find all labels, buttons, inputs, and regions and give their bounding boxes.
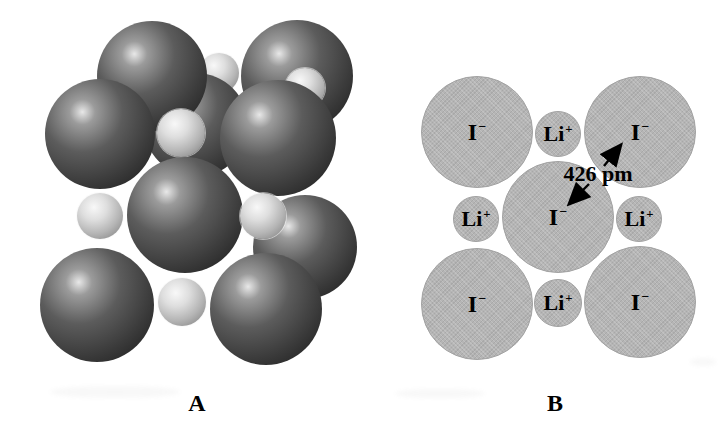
figure-lii-crystal: { "panel_a": { "label": "A", "spheres": … (0, 0, 722, 426)
distance-label: 426 pm (543, 163, 653, 185)
distance-arrows (0, 0, 722, 426)
panel-b-label: B (525, 391, 585, 415)
panel-b-2d-cross-section: 426 pm B I−I−I−I−I−Li+Li+Li+Li+ (0, 0, 722, 426)
arrow-to-center-iodide (570, 184, 589, 203)
